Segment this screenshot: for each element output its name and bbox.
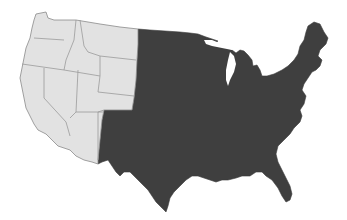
us-map: [0, 0, 347, 220]
